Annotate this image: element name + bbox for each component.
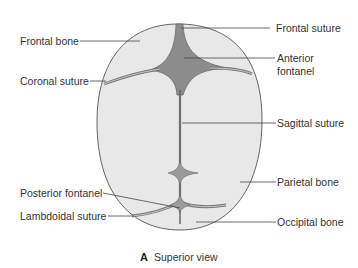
label-parietal-bone: Parietal bone — [277, 176, 339, 188]
label-frontal-suture: Frontal suture — [276, 22, 341, 34]
label-occipital-bone: Occipital bone — [277, 216, 344, 228]
caption-letter: A — [140, 251, 148, 263]
label-coronal-suture: Coronal suture — [20, 75, 89, 87]
label-sagittal-suture: Sagittal suture — [277, 117, 344, 129]
label-anterior-fontanel-2: fontanel — [277, 65, 314, 77]
label-lambdoidal-suture: Lambdoidal suture — [20, 210, 107, 222]
caption-text: Superior view — [154, 251, 218, 263]
label-anterior-fontanel-1: Anterior — [277, 52, 314, 64]
label-frontal-bone: Frontal bone — [20, 35, 79, 47]
skull-superior-view-diagram: Frontal bone Coronal suture Frontal sutu… — [0, 0, 358, 268]
label-posterior-fontanel: Posterior fontanel — [20, 187, 102, 199]
